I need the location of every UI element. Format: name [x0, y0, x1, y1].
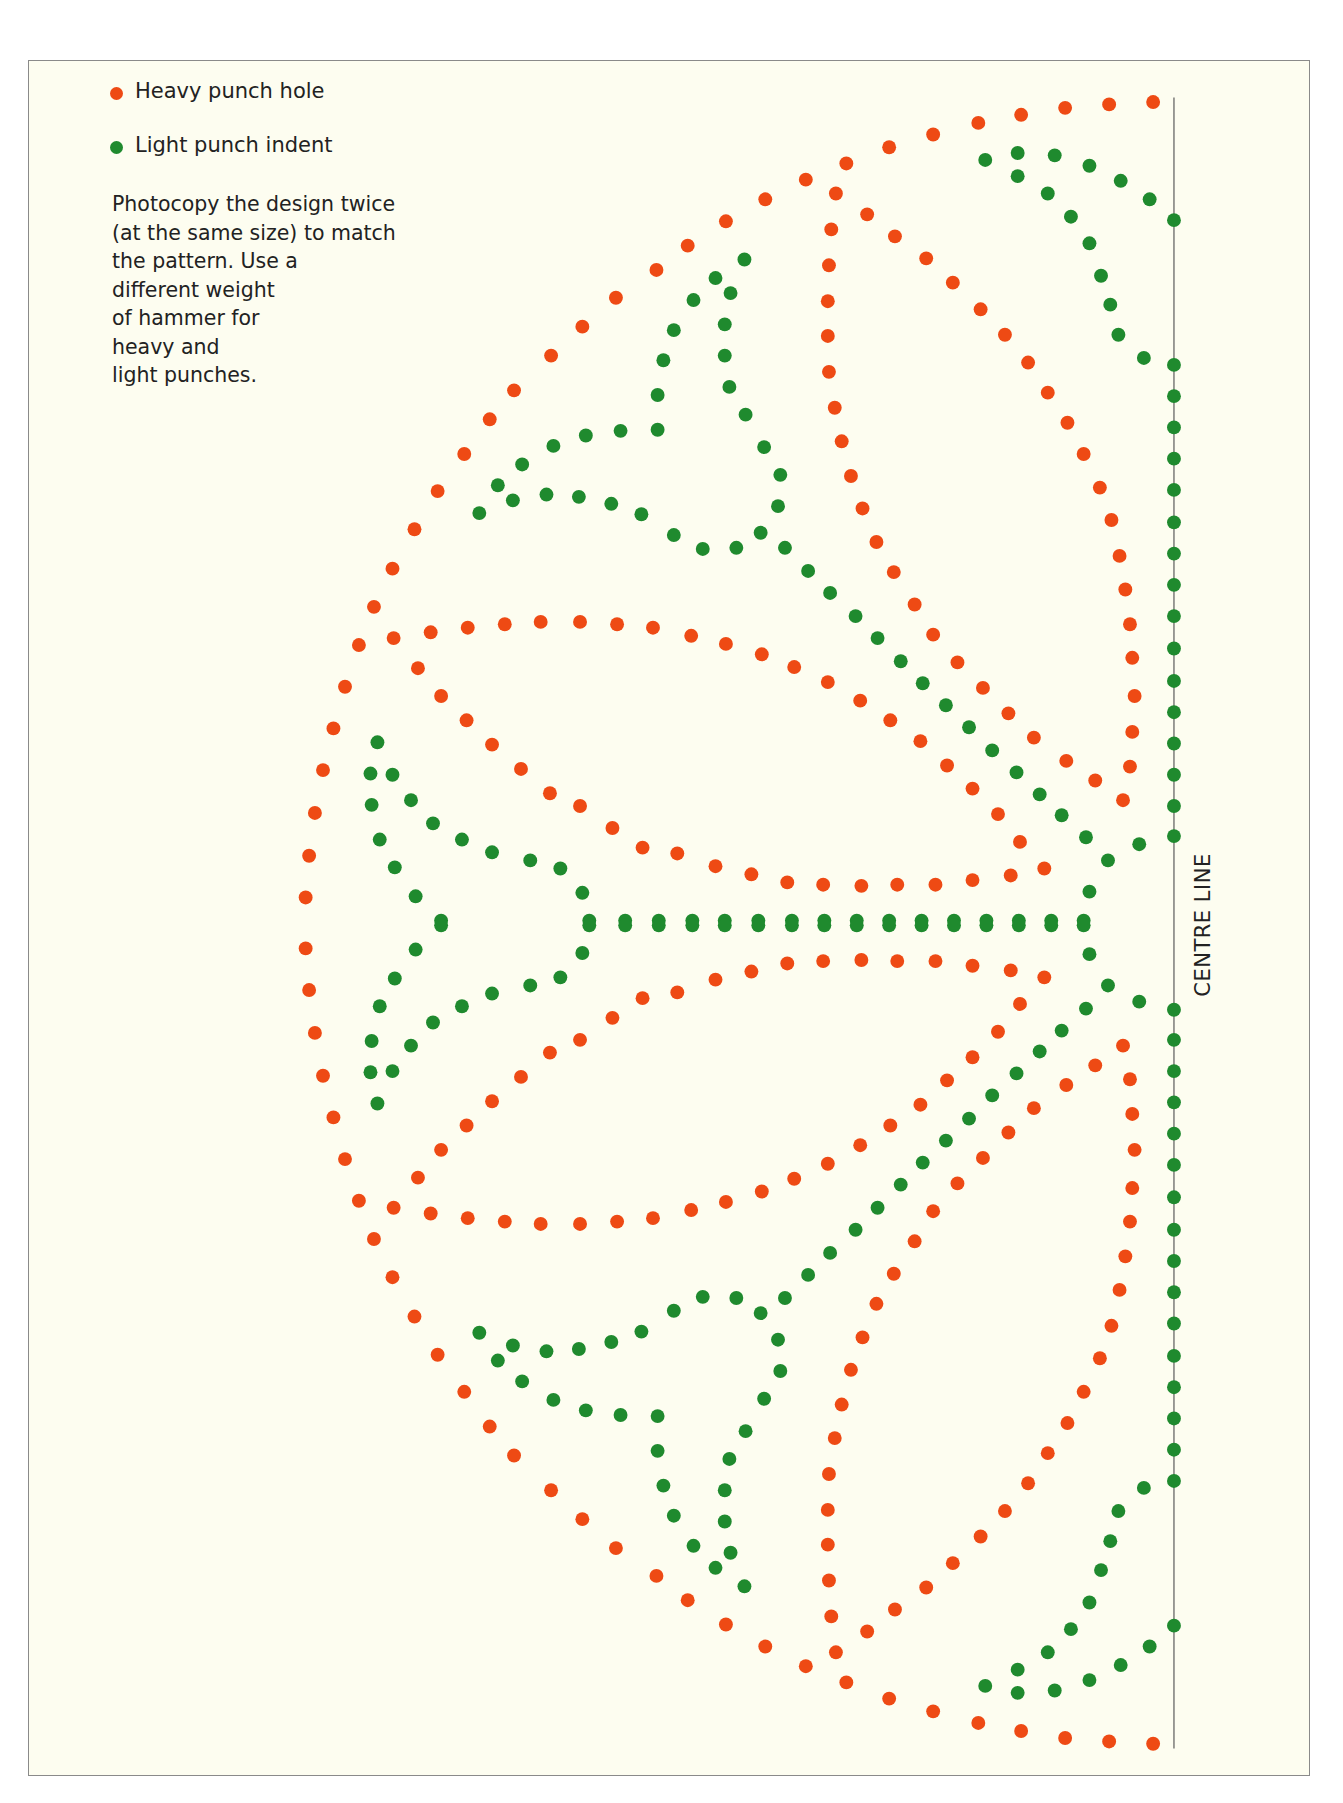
light-punch-dot — [434, 918, 448, 932]
heavy-punch-dot — [609, 291, 623, 305]
heavy-punch-dot — [940, 1073, 954, 1087]
light-punch-dot — [718, 1515, 732, 1529]
centre-line-label: CENTRE LINE — [1191, 853, 1215, 996]
light-punch-dot — [1167, 452, 1181, 466]
light-punch-dot — [722, 1452, 736, 1466]
heavy-punch-dot — [646, 1211, 660, 1225]
light-punch-dot — [1167, 1003, 1181, 1017]
heavy-punch-dot — [573, 1033, 587, 1047]
light-punch-dot — [575, 886, 589, 900]
light-punch-dot — [1041, 187, 1055, 201]
heavy-punch-dot — [821, 1538, 835, 1552]
heavy-punch-dot — [460, 1119, 474, 1133]
light-punch-dot — [718, 317, 732, 331]
heavy-punch-dot — [821, 1157, 835, 1171]
heavy-punch-dot — [636, 991, 650, 1005]
light-punch-dot — [894, 654, 908, 668]
heavy-punch-dot — [387, 631, 401, 645]
heavy-punch-dot — [854, 953, 868, 967]
heavy-punch-dot — [424, 625, 438, 639]
heavy-punch-dot — [1001, 706, 1015, 720]
light-punch-dot — [1167, 1095, 1181, 1109]
punch-pattern — [0, 0, 1343, 1803]
light-punch-dot — [1012, 918, 1026, 932]
light-punch-dot — [1167, 578, 1181, 592]
heavy-punch-dot — [929, 878, 943, 892]
light-punch-dot — [1010, 1066, 1024, 1080]
light-punch-dot — [667, 528, 681, 542]
heavy-punch-dot — [534, 615, 548, 629]
heavy-punch-dot — [1077, 1385, 1091, 1399]
heavy-punch-dot — [1123, 617, 1137, 631]
heavy-punch-dot — [650, 263, 664, 277]
light-punch-dot — [388, 972, 402, 986]
light-punch-dot — [1167, 213, 1181, 227]
heavy-punch-dot — [434, 689, 448, 703]
light-punch-dot — [687, 1539, 701, 1553]
light-punch-dot — [1132, 837, 1146, 851]
heavy-punch-dot — [709, 973, 723, 987]
heavy-punch-dot — [1118, 583, 1132, 597]
light-punch-dot — [618, 918, 632, 932]
light-punch-dot — [1064, 210, 1078, 224]
heavy-punch-dot — [853, 694, 867, 708]
heavy-punch-dot — [1128, 1143, 1142, 1157]
light-punch-dot — [651, 1409, 665, 1423]
light-punch-dot — [823, 586, 837, 600]
heavy-punch-dot — [929, 954, 943, 968]
light-punch-dot — [754, 526, 768, 540]
heavy-punch-dot — [684, 1203, 698, 1217]
heavy-punch-dot — [338, 680, 352, 694]
heavy-punch-dot — [461, 621, 475, 635]
heavy-punch-dot — [744, 867, 758, 881]
heavy-punch-dot — [498, 617, 512, 631]
heavy-punch-dot — [835, 1398, 849, 1412]
light-punch-dot — [1083, 1673, 1097, 1687]
heavy-punch-dot — [998, 328, 1012, 342]
heavy-punch-dot — [1102, 97, 1116, 111]
light-punch-dot — [1167, 799, 1181, 813]
heavy-punch-dot — [485, 1094, 499, 1108]
heavy-punch-dot — [821, 1503, 835, 1517]
heavy-punch-dot — [799, 1659, 813, 1673]
light-punch-dot — [751, 918, 765, 932]
light-punch-dot — [506, 1339, 520, 1353]
light-punch-dot — [614, 1408, 628, 1422]
heavy-punch-dot — [829, 1645, 843, 1659]
heavy-punch-dot — [461, 1211, 475, 1225]
heavy-punch-dot — [860, 1625, 874, 1639]
light-punch-dot — [426, 816, 440, 830]
heavy-punch-dot — [1093, 481, 1107, 495]
light-punch-dot — [1103, 1534, 1117, 1548]
heavy-punch-dot — [853, 1138, 867, 1152]
light-punch-dot — [1103, 298, 1117, 312]
light-punch-dot — [540, 1344, 554, 1358]
heavy-punch-dot — [926, 1704, 940, 1718]
heavy-punch-dot — [971, 116, 985, 130]
heavy-punch-dot — [780, 875, 794, 889]
heavy-punch-dot — [883, 713, 897, 727]
light-punch-dot — [978, 153, 992, 167]
light-punch-dot — [667, 323, 681, 337]
light-punch-dot — [947, 918, 961, 932]
light-punch-dot — [386, 768, 400, 782]
heavy-punch-dot — [424, 1207, 438, 1221]
light-punch-dot — [553, 970, 567, 984]
light-punch-dot — [1167, 389, 1181, 403]
heavy-punch-dot — [434, 1143, 448, 1157]
light-punch-dot — [614, 424, 628, 438]
heavy-punch-dot — [299, 941, 313, 955]
heavy-punch-dot — [1118, 1249, 1132, 1263]
light-punch-dot — [685, 918, 699, 932]
heavy-punch-dot — [1116, 1039, 1130, 1053]
heavy-punch-dot — [1113, 1283, 1127, 1297]
heavy-punch-dot — [913, 1098, 927, 1112]
light-punch-dot — [801, 564, 815, 578]
heavy-punch-dot — [408, 522, 422, 536]
light-punch-dot — [667, 1509, 681, 1523]
heavy-punch-dot — [882, 140, 896, 154]
heavy-punch-dot — [1116, 793, 1130, 807]
light-punch-dot — [540, 488, 554, 502]
heavy-punch-dot — [758, 192, 772, 206]
heavy-punch-dot — [1004, 869, 1018, 883]
